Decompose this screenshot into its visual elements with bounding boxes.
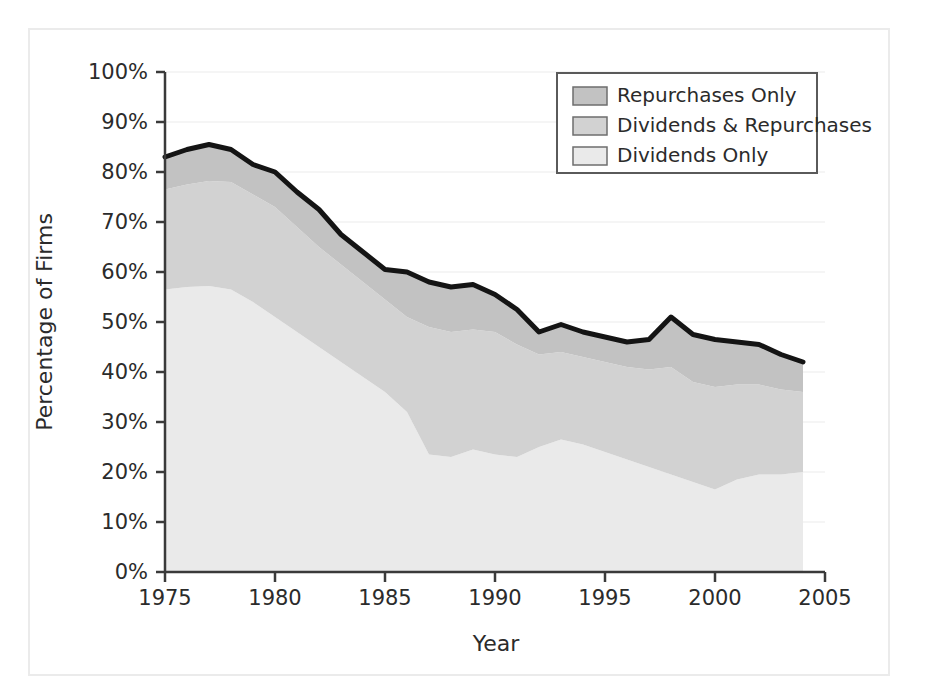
x-tick-label: 1975 <box>138 586 191 610</box>
x-tick-label: 1985 <box>358 586 411 610</box>
x-tick-label: 1980 <box>248 586 301 610</box>
x-tick-label: 1990 <box>468 586 521 610</box>
figure-root: 100%90%80%70%60%50%40%30%20%10%0% 197519… <box>0 0 929 700</box>
legend-label: Dividends & Repurchases <box>617 113 872 137</box>
y-axis-title: Percentage of Firms <box>32 213 57 431</box>
y-tick-label: 20% <box>101 460 148 484</box>
legend-label: Dividends Only <box>617 143 768 167</box>
x-axis-ticks: 1975198019851990199520002005 <box>138 572 851 610</box>
y-tick-label: 100% <box>88 60 148 84</box>
y-tick-label: 10% <box>101 510 148 534</box>
x-tick-label: 2000 <box>688 586 741 610</box>
legend-label: Repurchases Only <box>617 83 797 107</box>
x-tick-label: 1995 <box>578 586 631 610</box>
legend-swatch <box>573 147 607 165</box>
y-tick-label: 90% <box>101 110 148 134</box>
area-series-group <box>165 145 803 573</box>
y-tick-label: 80% <box>101 160 148 184</box>
legend: Repurchases OnlyDividends & RepurchasesD… <box>557 73 872 173</box>
y-tick-label: 40% <box>101 360 148 384</box>
y-tick-label: 60% <box>101 260 148 284</box>
legend-swatch <box>573 87 607 105</box>
x-axis-title: Year <box>472 631 521 656</box>
y-tick-label: 70% <box>101 210 148 234</box>
y-tick-label: 0% <box>115 560 148 584</box>
y-tick-label: 30% <box>101 410 148 434</box>
y-axis-ticks: 100%90%80%70%60%50%40%30%20%10%0% <box>88 60 165 584</box>
x-tick-label: 2005 <box>798 586 851 610</box>
y-tick-label: 50% <box>101 310 148 334</box>
stacked-area-chart: 100%90%80%70%60%50%40%30%20%10%0% 197519… <box>0 0 929 700</box>
legend-swatch <box>573 117 607 135</box>
